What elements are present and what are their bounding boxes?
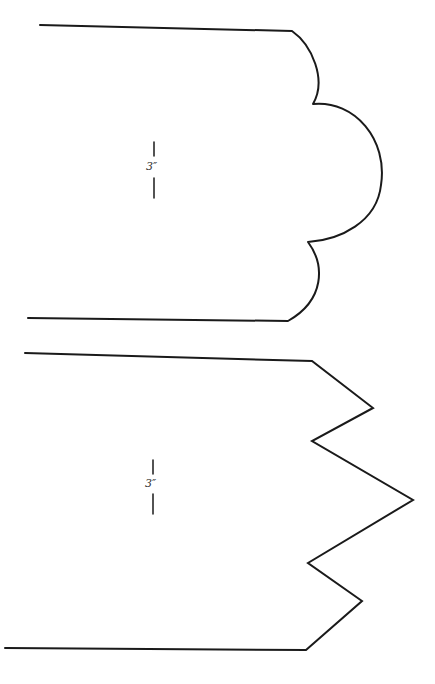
dimension-label-scalloped: 3″ (146, 160, 157, 173)
zigzag-outline (5, 353, 413, 650)
scalloped-template (28, 25, 382, 321)
dimension-label-zigzag: 3″ (145, 477, 156, 490)
pattern-diagram (0, 0, 435, 684)
zigzag-template (5, 353, 413, 650)
scalloped-outline (28, 25, 382, 321)
